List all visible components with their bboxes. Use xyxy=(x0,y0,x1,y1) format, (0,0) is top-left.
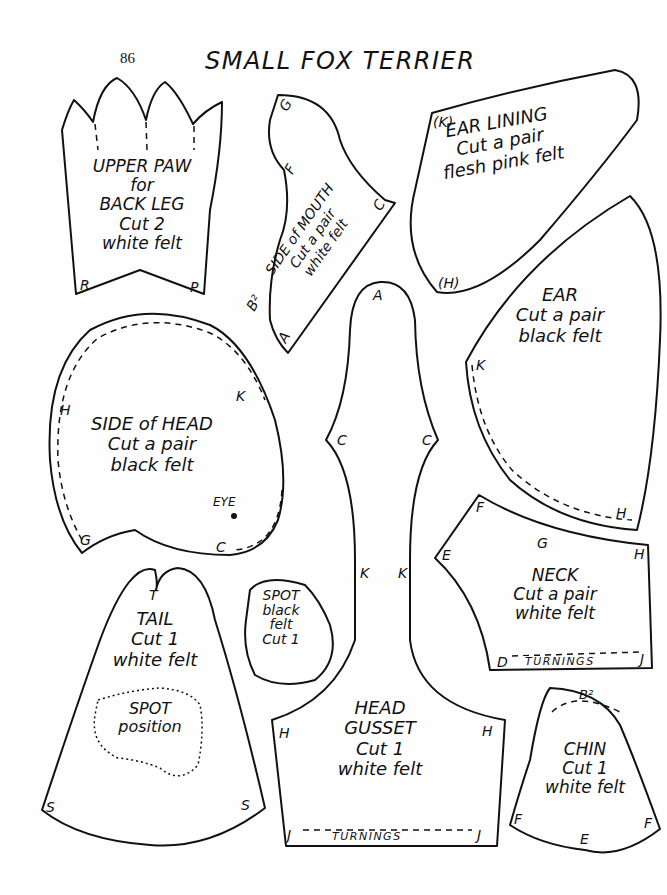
tail-spot-position: SPOT position xyxy=(100,700,200,736)
tail-material: white felt xyxy=(90,650,220,670)
spot-color: black xyxy=(248,603,314,618)
marker-f: F xyxy=(514,812,522,826)
side-of-head-cut: Cut a pair xyxy=(72,434,232,454)
marker-k: K xyxy=(476,358,485,372)
marker-h: H xyxy=(279,726,290,740)
spot-position-label-1: SPOT xyxy=(100,700,200,718)
marker-j: J xyxy=(477,828,481,842)
marker-f: F xyxy=(644,816,652,830)
chin-piece: CHIN Cut 1 white felt xyxy=(520,740,650,798)
head-gusset-material: white felt xyxy=(320,759,440,779)
chin-material: white felt xyxy=(520,778,650,797)
marker-j: J xyxy=(287,828,291,842)
marker-r: R xyxy=(80,278,90,292)
head-gusset-name-2: GUSSET xyxy=(320,718,440,738)
side-of-head-material: black felt xyxy=(72,455,232,475)
upper-paw-for: for xyxy=(72,176,212,195)
marker-c: C xyxy=(216,540,226,554)
upper-paw-name: UPPER PAW xyxy=(72,157,212,176)
marker-b2: B² xyxy=(579,688,593,701)
head-gusset-turnings: TURNINGS xyxy=(330,831,404,842)
marker-e: E xyxy=(442,548,451,562)
upper-paw-material: white felt xyxy=(72,234,212,253)
marker-e: E xyxy=(580,832,589,846)
upper-paw-cut: Cut 2 xyxy=(72,215,212,234)
side-of-head-name: SIDE of HEAD xyxy=(72,414,232,434)
marker-c: C xyxy=(337,433,347,447)
spot-piece: SPOT black felt Cut 1 xyxy=(248,588,314,647)
upper-paw-piece: UPPER PAW for BACK LEG Cut 2 white felt xyxy=(72,157,212,253)
tail-piece: TAIL Cut 1 white felt xyxy=(90,609,220,670)
marker-a: A xyxy=(373,288,383,302)
ear-cut: Cut a pair xyxy=(500,305,620,325)
neck-piece: NECK Cut a pair white felt xyxy=(495,566,615,624)
chin-cut: Cut 1 xyxy=(520,759,650,778)
head-gusset-cut: Cut 1 xyxy=(320,739,440,759)
spot-material: felt xyxy=(248,617,314,632)
marker-p: P xyxy=(190,280,198,294)
marker-g: G xyxy=(80,533,91,547)
neck-name: NECK xyxy=(495,566,615,585)
neck-turnings: TURNINGS xyxy=(523,656,597,667)
marker-k: K xyxy=(360,566,369,580)
marker-k: K xyxy=(398,566,407,580)
marker-j: J xyxy=(640,652,644,666)
marker-k: K xyxy=(236,389,245,403)
marker-t: T xyxy=(149,588,158,602)
tail-name: TAIL xyxy=(90,609,220,629)
marker-h: H xyxy=(634,547,645,561)
neck-material: white felt xyxy=(495,604,615,623)
marker-k-paren: (K) xyxy=(433,115,453,129)
side-of-head-piece: SIDE of HEAD Cut a pair black felt xyxy=(72,414,232,475)
chin-name: CHIN xyxy=(520,740,650,759)
ear-name: EAR xyxy=(500,285,620,305)
marker-g: G xyxy=(537,536,548,550)
head-gusset-piece: HEAD GUSSET Cut 1 white felt xyxy=(320,698,440,779)
marker-s: S xyxy=(46,800,55,814)
spot-position-label-2: position xyxy=(100,718,200,736)
marker-f: F xyxy=(476,500,484,514)
marker-s: S xyxy=(241,798,250,812)
upper-paw-leg: BACK LEG xyxy=(72,195,212,214)
pattern-page: 86 SMALL FOX TERRIER xyxy=(0,0,667,895)
marker-h: H xyxy=(482,724,493,738)
eye-dot xyxy=(231,513,237,519)
ear-material: black felt xyxy=(500,326,620,346)
neck-cut: Cut a pair xyxy=(495,585,615,604)
marker-h: H xyxy=(616,506,627,520)
ear-piece: EAR Cut a pair black felt xyxy=(500,285,620,346)
spot-cut: Cut 1 xyxy=(248,632,314,647)
eye-label: EYE xyxy=(213,496,236,508)
head-gusset-name-1: HEAD xyxy=(320,698,440,718)
tail-cut: Cut 1 xyxy=(90,629,220,649)
marker-c: C xyxy=(422,433,432,447)
marker-h: H xyxy=(60,403,71,417)
marker-h-paren: (H) xyxy=(438,276,459,290)
spot-name: SPOT xyxy=(248,588,314,603)
marker-d: D xyxy=(497,655,508,669)
ear-outline xyxy=(466,196,661,530)
